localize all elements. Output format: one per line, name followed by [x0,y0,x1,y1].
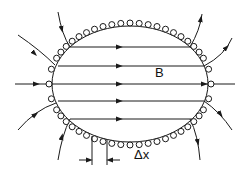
particle-circle [154,24,160,30]
delta-x-label: Δx [134,148,149,161]
particle-circle [109,140,115,146]
particle-circle [76,128,82,134]
particle-circle [69,38,75,44]
particle-circle [54,107,60,113]
particle-circle [100,24,106,30]
particle-circle [84,132,90,138]
particle-circle [127,142,133,148]
particle-circle [145,140,151,146]
particle-circle [127,20,133,26]
particle-circle [178,34,184,40]
particle-circle [196,49,202,55]
particle-circle [63,43,69,49]
particle-circle [171,132,177,138]
particle-circle [118,142,124,148]
particle-circle [154,139,160,145]
particle-circle [196,113,202,119]
particle-circle [163,26,169,32]
particle-circle [58,49,64,55]
magnetic-field-diagram [0,0,250,179]
particle-circle [185,124,191,130]
particle-circle [163,136,169,142]
particle-circle [200,55,206,61]
particle-circle [178,128,184,134]
particle-circle [69,124,75,130]
particle-circle [118,20,124,26]
particle-circle [100,139,106,145]
particle-circle [136,20,142,26]
field-label-b: B [155,66,164,79]
particle-circle [58,113,64,119]
particle-circle [76,34,82,40]
particle-circle [185,38,191,44]
particle-circle [145,22,151,28]
particle-circle [109,22,115,28]
particle-circle [54,55,60,61]
particle-circle [206,66,212,72]
particle-circle [48,66,54,72]
particle-circle [46,81,52,87]
particle-circle [171,30,177,36]
particle-circle [92,26,98,32]
particle-circle [208,81,214,87]
particle-circle [200,107,206,113]
particle-circle [191,119,197,125]
particle-circle [191,43,197,49]
particle-circle [84,30,90,36]
particle-circle [48,96,54,102]
particle-circle [206,96,212,102]
particle-circle [63,119,69,125]
